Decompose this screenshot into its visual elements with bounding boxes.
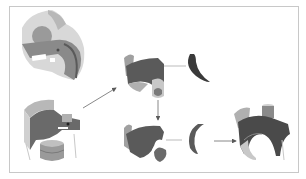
diagram-canvas bbox=[0, 0, 306, 179]
source-part-top bbox=[22, 10, 84, 80]
source-part-bottom bbox=[24, 100, 80, 161]
decomposed-lower bbox=[124, 124, 168, 162]
decomposed-arc bbox=[188, 54, 210, 82]
decomposed-crescent bbox=[189, 124, 204, 154]
decomposed-main bbox=[124, 54, 164, 98]
result-part bbox=[234, 104, 290, 160]
arrow-1 bbox=[83, 88, 116, 108]
